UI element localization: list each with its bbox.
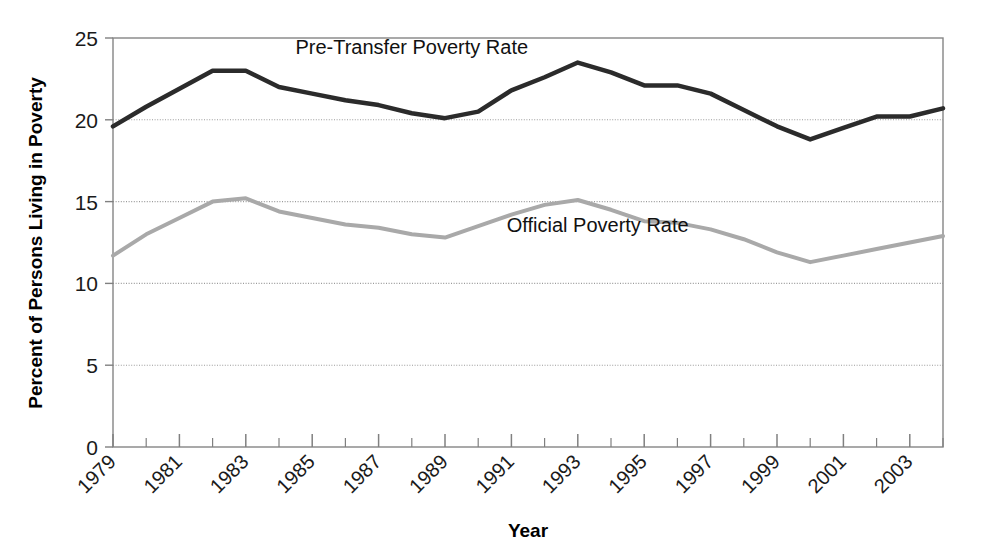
x-tick-label: 1997 (670, 450, 717, 497)
y-tick-label: 20 (75, 109, 98, 132)
x-axis-tick-labels: 1979198119831985198719891991199319951997… (73, 450, 917, 497)
x-tick-label: 1995 (604, 450, 651, 497)
x-tick-label: 1981 (139, 450, 186, 497)
y-axis-title: Percent of Persons Living in Poverty (25, 77, 46, 409)
x-tick-label: 1979 (73, 450, 120, 497)
x-tick-label: 1993 (538, 450, 585, 497)
x-tick-label: 1987 (338, 450, 385, 497)
x-axis-title: Year (508, 520, 549, 541)
x-tick-label: 1999 (737, 450, 784, 497)
x-tick-label: 1991 (471, 450, 518, 497)
y-tick-label: 25 (75, 27, 98, 50)
y-tick-label: 5 (86, 354, 98, 377)
x-tick-label: 2003 (870, 450, 917, 497)
y-tick-label: 15 (75, 191, 98, 214)
poverty-rate-line-chart: 0510152025 19791981198319851987198919911… (0, 0, 988, 558)
series-label: Official Poverty Rate (507, 214, 689, 236)
y-tick-label: 10 (75, 272, 98, 295)
y-tick-label: 0 (86, 436, 98, 459)
chart-canvas: 0510152025 19791981198319851987198919911… (0, 0, 988, 558)
series-label: Pre-Transfer Poverty Rate (295, 36, 528, 58)
x-tick-label: 2001 (803, 450, 850, 497)
x-tick-label: 1989 (405, 450, 452, 497)
x-tick-label: 1983 (206, 450, 253, 497)
y-axis-ticks (105, 38, 113, 447)
y-axis-tick-labels: 0510152025 (75, 27, 98, 459)
plot-area-background (113, 38, 943, 447)
x-tick-label: 1985 (272, 450, 319, 497)
